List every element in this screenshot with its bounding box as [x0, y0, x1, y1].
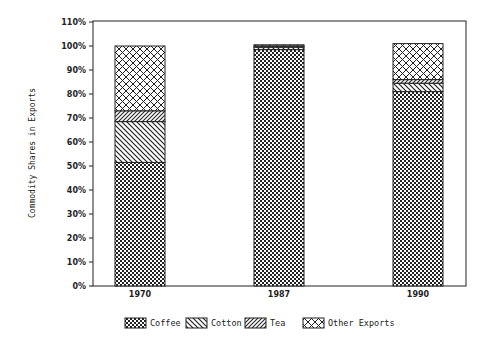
bar-segment-other-exports: [115, 46, 165, 111]
y-axis: 0%10%20%30%40%50%60%70%80%90%100%110%: [61, 18, 93, 291]
legend-swatch: [245, 318, 266, 328]
bar-segment-tea: [115, 111, 165, 122]
x-axis-labels: 197019871990: [129, 290, 430, 299]
y-tick-label: 90%: [67, 66, 86, 75]
bar-segment-coffee: [115, 162, 165, 286]
bar-segment-cotton: [115, 122, 165, 163]
y-axis-label: Commodity Shares in Exports: [28, 88, 37, 218]
bar-segment-coffee: [254, 50, 304, 286]
bar-1990: [393, 44, 443, 286]
x-tick-label: 1987: [268, 290, 290, 299]
legend-label: Other Exports: [328, 318, 395, 328]
y-tick-label: 10%: [67, 258, 86, 267]
legend-label: Coffee: [150, 318, 181, 328]
bars: [115, 44, 443, 286]
bar-segment-coffee: [393, 92, 443, 286]
y-tick-label: 70%: [67, 114, 86, 123]
legend-item-cotton: Cotton: [186, 318, 242, 328]
bar-1987: [254, 45, 304, 286]
y-tick-label: 100%: [61, 42, 86, 51]
y-tick-label: 80%: [67, 90, 86, 99]
legend-item-coffee: Coffee: [125, 318, 181, 328]
x-tick-label: 1990: [407, 290, 430, 299]
stacked-bar-chart: 0%10%20%30%40%50%60%70%80%90%100%110% 19…: [0, 0, 492, 353]
y-tick-label: 50%: [67, 162, 86, 171]
legend-swatch: [303, 318, 324, 328]
y-tick-label: 110%: [61, 18, 86, 27]
legend-item-other-exports: Other Exports: [303, 318, 395, 328]
bar-segment-cotton: [393, 83, 443, 91]
bar-segment-other-exports: [254, 45, 304, 46]
legend-label: Cotton: [211, 318, 242, 328]
legend: CoffeeCottonTeaOther Exports: [125, 318, 395, 328]
x-tick-label: 1970: [129, 290, 152, 299]
legend-swatch: [186, 318, 207, 328]
y-tick-label: 40%: [67, 186, 86, 195]
bar-segment-other-exports: [393, 44, 443, 80]
bar-segment-tea: [393, 80, 443, 84]
legend-label: Tea: [270, 318, 285, 328]
y-tick-label: 20%: [67, 234, 86, 243]
y-tick-label: 30%: [67, 210, 86, 219]
y-tick-label: 60%: [67, 138, 86, 147]
bar-1970: [115, 46, 165, 286]
y-tick-label: 0%: [72, 282, 86, 291]
legend-swatch: [125, 318, 146, 328]
legend-item-tea: Tea: [245, 318, 285, 328]
